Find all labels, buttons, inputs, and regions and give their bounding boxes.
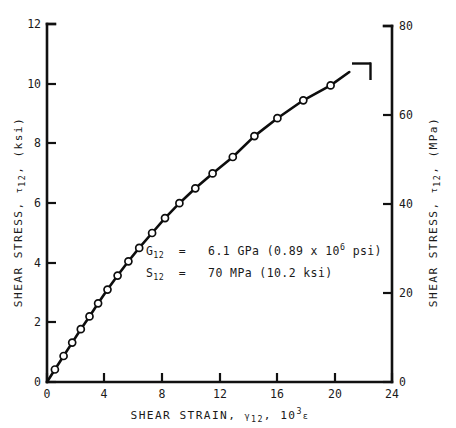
annotation-line-s12: S12 = 70 MPa (10.2 ksi) [146,266,333,282]
bottom-tick-label-20: 20 [328,387,342,401]
svg-text:SHEAR STRAIN, γ12, 103ε: SHEAR STRAIN, γ12, 103ε [131,406,310,424]
svg-text:SHEAR STRESS, τ12, (ksi): SHEAR STRESS, τ12, (ksi) [12,117,27,307]
left-axis-ticks [47,24,56,382]
bottom-tick-label-12: 12 [213,387,227,401]
right-tick-label-20: 20 [399,286,413,300]
right-axis-title: SHEAR STRESS, τ12, (MPa) [427,117,442,307]
data-point-marker [69,339,76,346]
right-tick-label-40: 40 [399,197,413,211]
shear-stress-strain-chart: 0 2 4 6 8 10 12 0 20 40 60 80 [0,0,456,428]
annotation-g12-subscript: 12 [153,250,164,260]
right-axis-title-symbol-sub: 12 [432,174,442,187]
data-point-marker [162,215,169,222]
left-axis-title-symbol-sub: 12 [17,174,27,187]
left-axis-title-symbol: τ [14,187,24,194]
annotation-g12-equals: = [179,244,186,258]
left-tick-label-12: 12 [27,17,41,31]
bottom-axis-title-comma: , [264,409,272,422]
left-tick-label-6: 6 [34,196,41,210]
left-tick-label-10: 10 [27,77,41,91]
left-axis-tick-labels: 0 2 4 6 8 10 12 [27,17,41,389]
right-axis-title-symbol: τ [429,187,439,194]
right-axis-ticks [383,26,392,382]
bottom-axis-title: SHEAR STRAIN, γ12, 103ε [131,406,310,424]
data-point-marker [209,170,216,177]
data-markers-group [51,82,334,373]
data-point-marker [86,313,93,320]
bottom-tick-label-16: 16 [270,387,284,401]
property-annotation-block: G12 = 6.1 GPa (0.89 x 106 psi) S12 = 70 … [146,242,382,282]
svg-text:SHEAR STRESS, τ12, (MPa): SHEAR STRESS, τ12, (MPa) [427,117,442,307]
annotation-g12-symbol: G [146,244,153,258]
data-point-marker [95,300,102,307]
bottom-axis-title-main: SHEAR STRAIN, [131,409,237,422]
right-axis-tick-labels: 0 20 40 60 80 [399,19,413,389]
right-axis-title-main: SHEAR STRESS, [427,201,440,307]
data-point-marker [149,230,156,237]
annotation-s12-symbol: S [146,266,153,280]
right-axis-title-comma: , [427,166,440,174]
left-axis-title-unit: (ksi) [12,117,25,158]
data-point-marker [114,272,121,279]
left-tick-label-0: 0 [34,375,41,389]
right-tick-label-0: 0 [399,375,406,389]
annotation-line-g12: G12 = 6.1 GPa (0.89 x 106 psi) [146,242,382,260]
data-point-marker [136,244,143,251]
data-point-marker [192,185,199,192]
annotation-g12-tail: psi) [345,244,382,258]
data-point-marker [251,133,258,140]
left-tick-label-4: 4 [34,256,41,270]
left-axis-title-main: SHEAR STRESS, [12,201,25,307]
data-point-marker [327,82,334,89]
data-point-marker [51,366,58,373]
data-series-group [47,72,349,382]
bottom-axis-title-unit-eps: ε [303,411,310,421]
shear-stress-strain-curve [47,72,349,382]
data-point-marker [229,154,236,161]
right-tick-label-80: 80 [399,19,413,33]
left-axis-title-comma: , [12,166,25,174]
data-point-marker [274,115,281,122]
left-axis-title: SHEAR STRESS, τ12, (ksi) [12,117,27,307]
chart-canvas: 0 2 4 6 8 10 12 0 20 40 60 80 [0,0,456,428]
bottom-tick-label-8: 8 [159,387,166,401]
failure-endpoint-marker [352,63,371,81]
data-point-marker [104,286,111,293]
annotation-s12-equals: = [179,266,186,280]
data-point-marker [77,326,84,333]
annotation-g12-value: 6.1 GPa (0.89 x 10 [208,244,340,258]
bottom-tick-label-0: 0 [44,387,51,401]
bottom-tick-label-24: 24 [385,387,399,401]
annotation-s12-subscript: 12 [153,272,164,282]
annotation-s12-value: 70 MPa (10.2 ksi) [208,266,333,280]
bottom-axis-ticks [47,373,392,382]
data-point-marker [176,200,183,207]
right-axis-title-unit: (MPa) [427,117,440,158]
data-point-marker [125,258,132,265]
bottom-axis-tick-labels: 0 4 8 12 16 20 24 [44,387,399,401]
bottom-tick-label-4: 4 [101,387,108,401]
data-point-marker [300,97,307,104]
bottom-axis-title-unit-base: 10 [280,409,296,422]
right-tick-label-60: 60 [399,108,413,122]
bottom-axis-title-symbol-sub: 12 [251,414,264,424]
left-tick-label-8: 8 [34,136,41,150]
data-point-marker [60,353,67,360]
left-tick-label-2: 2 [34,315,41,329]
